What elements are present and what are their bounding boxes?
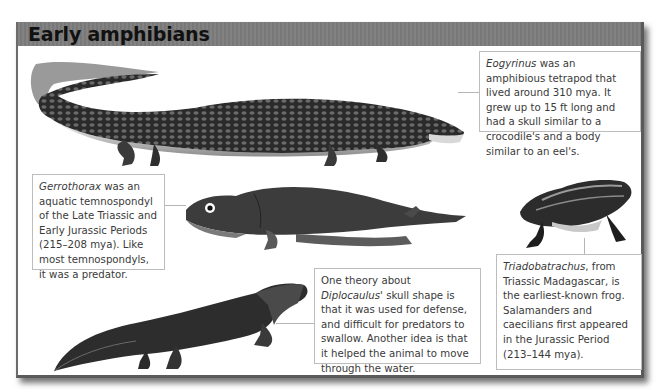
eogyrinus-text: was an amphibious tetrapod that lived ar…: [486, 58, 616, 157]
frog-illustration-icon: [512, 170, 638, 250]
eogyrinus-illustration-icon: [24, 56, 474, 166]
gerrothorax-illustration-icon: [176, 174, 476, 254]
triadobatrachus-caption: Triadobatrachus, from Triassic Madagasca…: [496, 254, 642, 370]
early-amphibians-panel: Early amphibians Eogyrinus was an amph: [16, 22, 644, 378]
diplocaulus-caption: One theory about Diplocaulus' skull shap…: [314, 268, 481, 364]
diplocaulus-connector-line: [276, 323, 314, 324]
eogyrinus-caption: Eogyrinus was an amphibious tetrapod tha…: [479, 51, 641, 132]
panel-header: Early amphibians: [18, 22, 641, 46]
diplocaulus-prefix: One theory about: [321, 275, 411, 286]
triadobatrachus-text: , from Triassic Madagascar, is the earli…: [503, 261, 628, 360]
gerrothorax-connector-line: [164, 205, 186, 206]
eogyrinus-name: Eogyrinus: [486, 58, 536, 69]
diplocaulus-text: ' skull shape is that it was used for de…: [321, 290, 469, 374]
gerrothorax-caption: Gerrothorax was an aquatic temnospondyl …: [32, 174, 165, 270]
diplocaulus-illustration-icon: [36, 275, 316, 375]
gerrothorax-text: was an aquatic temnospondyl of the Late …: [39, 181, 157, 280]
frog-connector-line: [584, 238, 585, 254]
diplocaulus-name: Diplocaulus: [321, 290, 380, 301]
triadobatrachus-name: Triadobatrachus: [503, 261, 585, 272]
gerrothorax-name: Gerrothorax: [39, 181, 101, 192]
page-title: Early amphibians: [28, 22, 210, 46]
